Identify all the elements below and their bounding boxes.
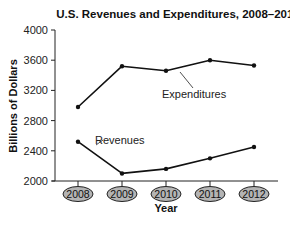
x-tick-label: 2012 [242,188,266,200]
x-axis-title: Year [154,202,178,214]
y-tick-label: 2800 [24,115,48,127]
expenditures-label: Expenditures [162,72,227,100]
data-point [120,171,124,175]
y-tick-label: 2400 [24,145,48,157]
year-badge: 2009 [107,187,137,202]
year-badge: 2010 [151,187,181,202]
y-tick-label: 2000 [24,175,48,187]
expenditures-label-text: Expenditures [162,88,227,100]
data-point [76,105,80,109]
data-point [208,58,212,62]
series-expenditures [76,58,256,109]
chart-title: U.S. Revenues and Expenditures, 2008–201… [56,8,290,20]
line-chart: U.S. Revenues and Expenditures, 2008–201… [0,0,290,225]
year-badge: 2008 [63,187,93,202]
year-badge: 2011 [195,187,225,202]
data-point [120,64,124,68]
y-tick-label: 4000 [24,24,48,36]
x-tick-label: 2011 [199,188,222,200]
x-tick-label: 2009 [110,188,134,200]
revenues-label-text: Revenues [95,134,145,146]
x-axis: 20082009201020112012 [52,181,278,202]
revenues-label: Revenues [95,134,145,146]
data-point [164,69,168,73]
data-point [208,156,212,160]
data-point [76,140,80,144]
y-axis-title: Billions of Dollars [7,59,19,153]
x-tick-label: 2008 [66,188,90,200]
x-tick-label: 2010 [154,188,178,200]
data-point [252,145,256,149]
y-tick-label: 3200 [24,84,48,96]
data-point [164,167,168,171]
year-badge: 2012 [239,187,269,202]
data-point [252,63,256,67]
y-axis: 200024002800320036004000 [24,24,55,187]
y-tick-label: 3600 [24,54,48,66]
